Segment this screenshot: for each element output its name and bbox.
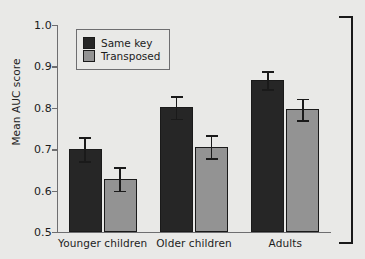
error-bar-cap bbox=[206, 158, 218, 160]
x-category-label: Adults bbox=[269, 237, 302, 249]
error-bar bbox=[176, 96, 178, 118]
legend-label-same-key: Same key bbox=[101, 37, 153, 49]
y-tick-mark bbox=[52, 191, 57, 192]
error-bar-cap bbox=[297, 120, 309, 122]
error-bar bbox=[267, 71, 269, 89]
error-bar-cap bbox=[262, 71, 274, 73]
legend-item-transposed: Transposed bbox=[83, 50, 160, 62]
bar-chart-figure: Mean AUC score 0.50.60.70.80.91.0 Younge… bbox=[0, 0, 365, 259]
figure-grouping-bracket-icon bbox=[339, 16, 353, 244]
error-bar-cap bbox=[171, 96, 183, 98]
error-bar bbox=[211, 135, 213, 158]
error-bar-cap bbox=[79, 161, 91, 163]
bar bbox=[286, 109, 319, 232]
x-axis-line bbox=[57, 232, 331, 233]
x-category-label: Older children bbox=[156, 237, 232, 249]
x-category-label: Younger children bbox=[58, 237, 147, 249]
error-bar-cap bbox=[79, 137, 91, 139]
legend-swatch-same-key bbox=[83, 37, 95, 49]
y-tick-label: 1.0 bbox=[26, 19, 52, 32]
y-axis-tick-labels: 0.50.60.70.80.91.0 bbox=[26, 0, 52, 259]
y-tick-mark bbox=[52, 66, 57, 67]
error-bar bbox=[119, 167, 121, 190]
y-tick-mark bbox=[52, 149, 57, 150]
y-axis-line bbox=[57, 25, 58, 232]
error-bar-cap bbox=[114, 191, 126, 193]
error-bar-cap bbox=[206, 135, 218, 137]
legend-item-same-key: Same key bbox=[83, 37, 160, 49]
legend-label-transposed: Transposed bbox=[101, 50, 160, 62]
y-tick-mark bbox=[52, 25, 57, 26]
chart-legend: Same key Transposed bbox=[76, 29, 170, 70]
bar bbox=[251, 80, 284, 232]
bar bbox=[160, 107, 193, 232]
y-tick-mark bbox=[52, 232, 57, 233]
error-bar bbox=[302, 99, 304, 121]
y-tick-label: 0.8 bbox=[26, 101, 52, 114]
error-bar-cap bbox=[262, 89, 274, 91]
y-tick-mark bbox=[52, 108, 57, 109]
error-bar-cap bbox=[114, 167, 126, 169]
y-tick-label: 0.5 bbox=[26, 226, 52, 239]
legend-swatch-transposed bbox=[83, 50, 95, 62]
y-axis-label: Mean AUC score bbox=[10, 42, 22, 162]
error-bar-cap bbox=[171, 119, 183, 121]
y-tick-label: 0.7 bbox=[26, 143, 52, 156]
error-bar bbox=[84, 137, 86, 161]
error-bar-cap bbox=[297, 99, 309, 101]
y-tick-label: 0.6 bbox=[26, 184, 52, 197]
y-tick-label: 0.9 bbox=[26, 60, 52, 73]
